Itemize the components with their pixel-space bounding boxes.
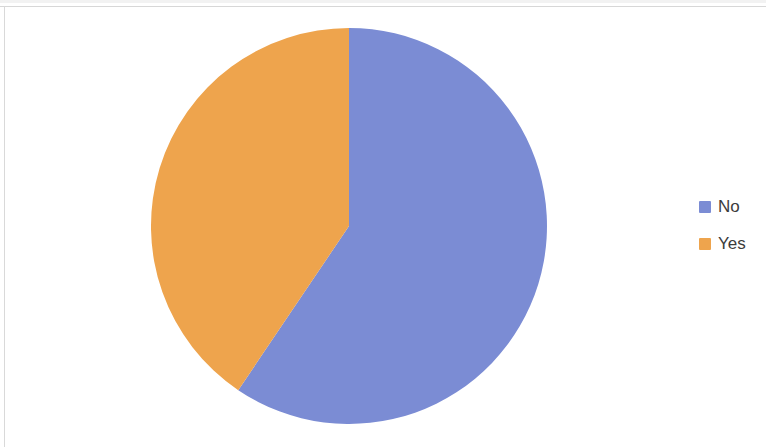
frame-left-border [4, 6, 5, 447]
pie-chart-screenshot: No Yes [0, 0, 766, 447]
legend-label-yes: Yes [718, 234, 746, 253]
pie-chart-svg [151, 28, 547, 424]
page-top-edge [0, 0, 766, 3]
frame-top-border [0, 6, 766, 7]
legend-swatch-no-icon [699, 201, 711, 213]
pie-chart-plot-area [151, 28, 547, 424]
legend-swatch-yes-icon [699, 238, 711, 250]
legend-label-no: No [718, 197, 740, 216]
chart-legend: No Yes [699, 196, 761, 270]
legend-item-yes[interactable]: Yes [699, 233, 761, 254]
legend-item-no[interactable]: No [699, 196, 761, 217]
